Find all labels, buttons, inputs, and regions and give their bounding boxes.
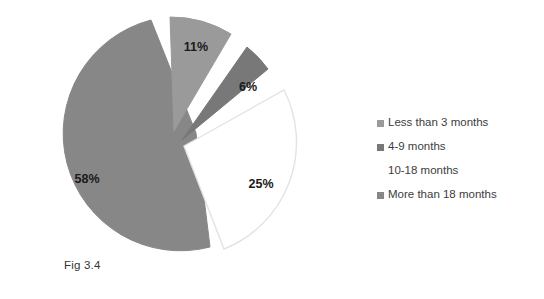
legend-item-less-than-3-months[interactable]: Less than 3 months [377,111,537,135]
figure-caption: Fig 3.4 [64,259,101,271]
legend-item-label: More than 18 months [388,189,497,201]
square-marker-icon [377,192,384,199]
legend-item-label: 4-9 months [388,141,446,153]
pie-chart-figure: 11% 6% 25% 58% Less than 3 months 4-9 mo… [0,0,544,299]
square-marker-icon [377,120,384,127]
legend-item-10-18-months[interactable]: 10-18 months [377,159,537,183]
pie-slice-label-more-than-18-months: 58% [74,172,99,186]
legend-item-label: Less than 3 months [388,117,488,129]
pie-chart-svg: 11% 6% 25% 58% [0,0,360,275]
pie-slice-label-10-18-months: 25% [248,177,273,191]
pie-slice-label-4-9-months: 6% [239,80,257,94]
legend-item-4-9-months[interactable]: 4-9 months [377,135,537,159]
legend-item-label: 10-18 months [388,165,458,177]
square-marker-icon [377,144,384,151]
square-marker-icon [377,168,384,175]
chart-legend: Less than 3 months 4-9 months 10-18 mont… [377,111,537,207]
pie-slice-label-less-than-3-months: 11% [184,40,208,54]
legend-item-more-than-18-months[interactable]: More than 18 months [377,183,537,207]
